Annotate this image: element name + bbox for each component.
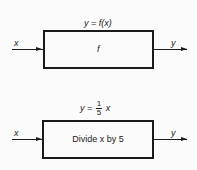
equation-label: y = 1 5 x [80,100,110,117]
output-arrowhead-icon [181,137,187,141]
output-label: y [171,38,176,48]
equation-label: y = f(x) [84,18,112,28]
output-arrowhead-icon [181,47,187,51]
box-label: f [97,44,100,54]
output-label: y [171,128,176,138]
input-arrowhead-icon [36,47,42,51]
fraction-denominator: 5 [97,109,101,117]
input-label: x [14,38,19,48]
input-label: x [14,128,19,138]
fraction: 1 5 [96,100,102,117]
box-label: Divide x by 5 [72,134,124,144]
equation-suffix: x [106,103,111,113]
equation-prefix: y = [80,103,92,113]
